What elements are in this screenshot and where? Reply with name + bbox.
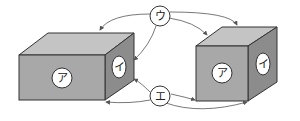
- arrow-e-to-left-bottom: [106, 100, 150, 103]
- arrow-e-to-right-bottom: [166, 102, 247, 109]
- arrow-u-to-left-side: [134, 26, 156, 60]
- arrow-u-to-right-top: [170, 12, 237, 25]
- label-e: エ: [155, 90, 166, 103]
- diagram-canvas: ア イ ア イ ウ エ: [0, 0, 300, 121]
- right-cube-side-label: イ: [258, 58, 269, 71]
- left-box-side-label: イ: [114, 61, 125, 74]
- label-u: ウ: [155, 10, 166, 23]
- arrow-u-to-right-front: [169, 18, 207, 35]
- right-cube-front-label: ア: [217, 67, 228, 80]
- right-cube: ア イ: [196, 27, 277, 101]
- arrow-e-to-right-front: [171, 94, 195, 100]
- arrow-u-to-left-top: [100, 14, 150, 30]
- left-box-front-label: ア: [57, 72, 68, 85]
- left-box: ア イ: [19, 33, 134, 100]
- arrow-e-to-left-side: [134, 79, 150, 92]
